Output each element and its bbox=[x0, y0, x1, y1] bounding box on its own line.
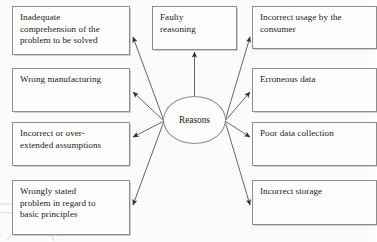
node-label: Incorrect or over- extended assumptions bbox=[20, 128, 123, 151]
node-box-incorrect-storage[interactable]: Incorrect storage bbox=[252, 180, 377, 225]
center-node-reasons[interactable]: Reasons bbox=[163, 96, 226, 144]
node-label: Incorrect storage bbox=[260, 186, 370, 198]
arrow-to-erroneous-data bbox=[225, 92, 250, 121]
node-box-poor-data-collection[interactable]: Poor data collection bbox=[252, 122, 377, 166]
node-label: Erroneous data bbox=[260, 74, 370, 86]
node-box-wrong-manufacturing[interactable]: Wrong manufacturing bbox=[12, 68, 130, 112]
node-label: Faulty reasoning bbox=[160, 12, 230, 35]
node-label: Wrong manufacturing bbox=[20, 74, 123, 86]
node-box-erroneous-data[interactable]: Erroneous data bbox=[252, 68, 377, 112]
node-label: Wrongly stated problem in regard to basi… bbox=[20, 186, 123, 221]
arrow-to-incorrect-overextended-assumptions bbox=[133, 121, 164, 137]
arrow-to-incorrect-storage bbox=[225, 121, 250, 205]
node-box-incorrect-overextended-assumptions[interactable]: Incorrect or over- extended assumptions bbox=[12, 122, 130, 166]
arrow-to-wrongly-stated-problem bbox=[133, 121, 164, 205]
arrow-to-poor-data-collection bbox=[225, 121, 250, 137]
node-label: Incorrect usage by the consumer bbox=[260, 12, 370, 35]
node-box-wrongly-stated-problem[interactable]: Wrongly stated problem in regard to basi… bbox=[12, 180, 130, 235]
node-box-faulty-reasoning[interactable]: Faulty reasoning bbox=[152, 6, 237, 50]
node-label: Poor data collection bbox=[260, 128, 370, 140]
center-node-label: Reasons bbox=[179, 115, 210, 125]
node-box-inadequate-comprehension[interactable]: Inadequate comprehension of the problem … bbox=[12, 6, 130, 55]
arrow-to-wrong-manufacturing bbox=[133, 92, 164, 121]
node-label: Inadequate comprehension of the problem … bbox=[20, 12, 123, 47]
node-box-incorrect-usage-consumer[interactable]: Incorrect usage by the consumer bbox=[252, 6, 377, 49]
